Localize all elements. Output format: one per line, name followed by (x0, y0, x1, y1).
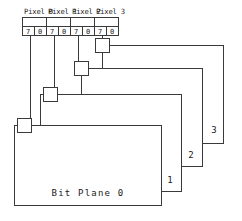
pixel-label-3: Pixel 3 (96, 7, 125, 16)
bit-digit-p3-msb: 7 (98, 28, 102, 36)
bit-plane-3-label: 3 (211, 125, 216, 135)
bit-plane-diagram: Pixel 0 Pixel 1 Pixel 2 Pixel 3 7 0 7 0 … (0, 0, 242, 221)
bit-cell-plane-1 (44, 88, 58, 102)
bit-digit-p2-lsb: 0 (86, 28, 90, 36)
bit-digit-p3-lsb: 0 (110, 28, 114, 36)
bit-plane-2-label: 2 (188, 150, 193, 160)
bit-digit-p0-lsb: 0 (38, 28, 42, 36)
bit-cell-plane-3 (96, 39, 110, 53)
bit-digit-p1-msb: 7 (50, 28, 54, 36)
bit-digit-p2-msb: 7 (74, 28, 78, 36)
bit-cell-plane-2 (75, 62, 89, 76)
bit-digit-p0-msb: 7 (26, 28, 30, 36)
bit-cell-plane-0 (18, 119, 32, 133)
bit-plane-1-label: 1 (167, 175, 172, 185)
pixel-byte-row (23, 18, 119, 36)
bit-digit-p1-lsb: 0 (62, 28, 66, 36)
bit-plane-0-label: Bit Plane 0 (52, 188, 125, 198)
